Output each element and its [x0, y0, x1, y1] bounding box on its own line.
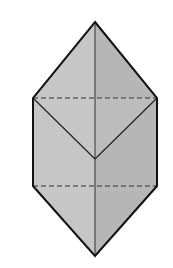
- solid-diagram: [0, 0, 173, 268]
